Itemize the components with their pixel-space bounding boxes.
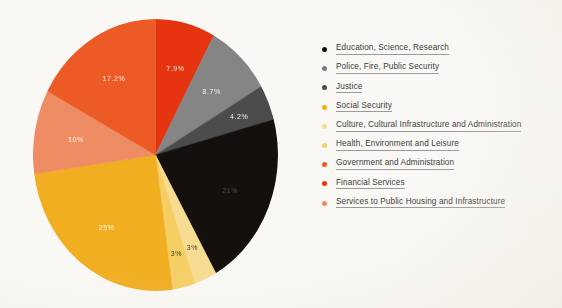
pie-slice-value-label: 17.2% (102, 75, 125, 82)
pie-chart-page: 7.9%8.7%4.2%21%3%3%25%10%17.2% Education… (0, 0, 562, 308)
legend-item-label: Services to Public Housing and Infrastru… (336, 198, 505, 209)
legend-color-swatch-icon (322, 124, 327, 129)
legend-item[interactable]: Government and Administration (322, 155, 554, 174)
legend-item[interactable]: Social Security (322, 98, 554, 117)
legend-item[interactable]: Health, Environment and Leisure (322, 136, 554, 155)
pie-slice-value-label: 3% (171, 249, 182, 256)
pie-slice-value-label: 8.7% (203, 87, 221, 94)
legend-color-swatch-icon (322, 105, 327, 110)
legend-item-label: Culture, Cultural Infrastructure and Adm… (336, 121, 521, 132)
legend-item-label: Education, Science, Research (336, 44, 449, 55)
chart-legend: Education, Science, ResearchPolice, Fire… (322, 40, 554, 213)
pie-svg (33, 19, 278, 291)
legend-color-swatch-icon (322, 181, 327, 186)
legend-item[interactable]: Police, Fire, Public Security (322, 59, 554, 78)
pie-chart-figure: 7.9%8.7%4.2%21%3%3%25%10%17.2% (23, 7, 288, 302)
legend-item-label: Health, Environment and Leisure (336, 140, 459, 151)
pie-chart-graphic: 7.9%8.7%4.2%21%3%3%25%10%17.2% (33, 19, 278, 291)
legend-color-swatch-icon (322, 162, 327, 167)
legend-color-swatch-icon (322, 66, 327, 71)
legend-item[interactable]: Services to Public Housing and Infrastru… (322, 194, 554, 213)
pie-slice-value-label: 25% (99, 223, 115, 230)
legend-color-swatch-icon (322, 47, 327, 52)
legend-item-label: Justice (336, 83, 362, 94)
legend-color-swatch-icon (322, 143, 327, 148)
legend-item-label: Government and Administration (336, 159, 454, 170)
legend-color-swatch-icon (322, 85, 327, 90)
pie-slice-value-label: 3% (187, 243, 198, 250)
pie-slice-value-label: 4.2% (230, 113, 248, 120)
legend-item[interactable]: Justice (322, 78, 554, 97)
pie-slice-value-label: 21% (222, 186, 238, 193)
legend-item-label: Police, Fire, Public Security (336, 63, 439, 74)
pie-slices (33, 19, 278, 291)
pie-slice-value-label: 10% (68, 136, 84, 143)
legend-item-label: Financial Services (336, 179, 405, 190)
legend-item[interactable]: Culture, Cultural Infrastructure and Adm… (322, 117, 554, 136)
legend-item[interactable]: Education, Science, Research (322, 40, 554, 59)
legend-item-label: Social Security (336, 102, 392, 113)
legend-item[interactable]: Financial Services (322, 174, 554, 193)
pie-slice-value-label: 7.9% (166, 64, 184, 71)
legend-color-swatch-icon (322, 201, 327, 206)
